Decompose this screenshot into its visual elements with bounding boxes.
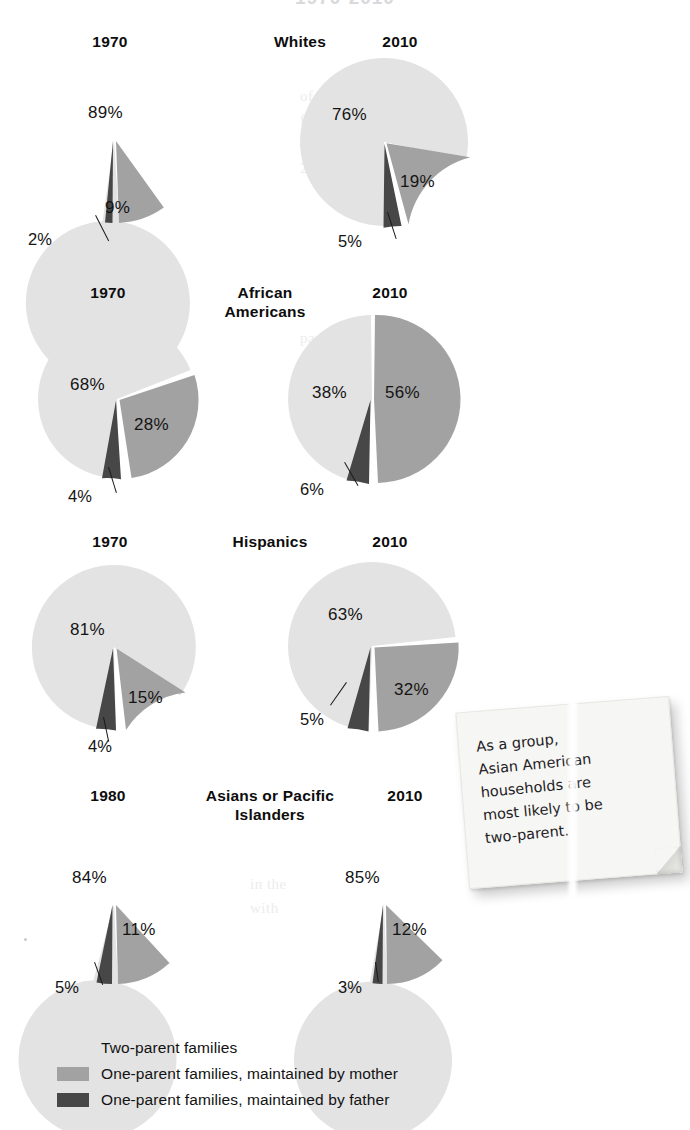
row-3-year-left: 1970 xyxy=(65,532,155,551)
row-2-group-label-line1: African xyxy=(238,284,293,301)
pct-hispanics-1970-mother: 15% xyxy=(128,688,163,708)
pct-hispanics-2010-mother: 32% xyxy=(394,680,429,700)
pct-asians-2010-mother: 12% xyxy=(392,920,427,940)
bleed-text: with xyxy=(250,900,279,917)
pct-african-americans-1970-two-parent: 68% xyxy=(70,375,105,395)
pct-asians-1980-father: 5% xyxy=(55,978,79,997)
pct-whites-1970-father: 2% xyxy=(28,230,52,249)
bleed-text: in the xyxy=(250,876,287,893)
pie-hispanics-2010 xyxy=(288,562,456,730)
pie-african-americans-1970 xyxy=(38,320,196,478)
legend-label-mother: One-parent families, maintained by mothe… xyxy=(101,1065,398,1083)
sticky-note-fold-icon xyxy=(655,846,683,874)
pct-african-americans-1970-father: 4% xyxy=(68,487,92,506)
legend-item-mother[interactable]: One-parent families, maintained by mothe… xyxy=(57,1062,487,1086)
row-4-year-right: 2010 xyxy=(360,786,450,805)
pct-african-americans-2010-father: 6% xyxy=(300,480,324,499)
pct-hispanics-1970-father: 4% xyxy=(88,737,112,756)
pct-whites-1970-mother: 9% xyxy=(105,198,130,218)
pie-asians-1980 xyxy=(35,825,193,983)
pct-african-americans-2010-mother: 56% xyxy=(385,383,420,403)
legend-label-father: One-parent families, maintained by fathe… xyxy=(101,1091,389,1109)
pie-hispanics-1970 xyxy=(32,565,196,729)
pct-whites-2010-father: 5% xyxy=(338,232,362,251)
legend: Two-parent families One-parent families,… xyxy=(57,1036,487,1114)
pct-asians-1980-two-parent: 84% xyxy=(72,868,107,888)
pie-chart-figure: 1970-2010 of the families in cost less 2… xyxy=(0,0,690,1130)
row-1-year-left: 1970 xyxy=(65,32,155,51)
legend-item-father[interactable]: One-parent families, maintained by fathe… xyxy=(57,1088,487,1112)
legend-label-two-parent: Two-parent families xyxy=(101,1039,237,1057)
row-4-group-label-line1: Asians or Pacific xyxy=(206,787,334,804)
page-title: 1970-2010 xyxy=(0,0,690,9)
pie-asians-2010 xyxy=(305,825,463,983)
scan-speck xyxy=(24,938,27,941)
pct-asians-1980-mother: 11% xyxy=(122,920,156,940)
pct-hispanics-2010-two-parent: 63% xyxy=(328,605,363,625)
row-3-year-right: 2010 xyxy=(345,532,435,551)
sticky-note[interactable]: As a group, Asian American households ar… xyxy=(455,696,682,889)
pct-african-americans-1970-mother: 28% xyxy=(134,415,169,435)
pct-whites-2010-mother: 19% xyxy=(400,172,435,192)
legend-swatch-mother-icon xyxy=(57,1067,89,1081)
pct-whites-1970-two-parent: 89% xyxy=(88,103,123,123)
row-1-year-right: 2010 xyxy=(355,32,445,51)
pie-whites-2010 xyxy=(300,58,468,226)
pct-asians-2010-two-parent: 85% xyxy=(345,868,380,888)
row-4-group-label-line2: Islanders xyxy=(235,806,305,823)
legend-swatch-two-parent-icon xyxy=(57,1041,89,1055)
row-4-group-label: Asians or Pacific Islanders xyxy=(170,786,370,824)
pct-whites-2010-two-parent: 76% xyxy=(332,105,367,125)
pct-asians-2010-father: 3% xyxy=(338,978,362,997)
legend-swatch-father-icon xyxy=(57,1093,89,1107)
row-4-year-left: 1980 xyxy=(63,786,153,805)
row-2-year-right: 2010 xyxy=(345,283,435,302)
legend-item-two-parent[interactable]: Two-parent families xyxy=(57,1036,487,1060)
sticky-note-text: As a group, Asian American households ar… xyxy=(475,719,665,851)
pct-hispanics-1970-two-parent: 81% xyxy=(70,620,105,640)
pct-hispanics-2010-father: 5% xyxy=(300,710,324,729)
row-2-year-left: 1970 xyxy=(63,283,153,302)
row-3-group-label: Hispanics xyxy=(175,532,365,551)
pct-african-americans-2010-two-parent: 38% xyxy=(312,383,347,403)
